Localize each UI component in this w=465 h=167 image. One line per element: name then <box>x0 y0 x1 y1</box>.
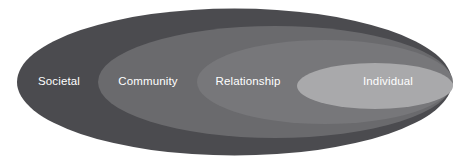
relationship-label: Relationship <box>215 75 280 87</box>
community-label: Community <box>118 75 178 87</box>
individual-label: Individual <box>363 75 413 87</box>
nested-ellipses-canvas: Societal Community Relationship Individu… <box>0 0 465 167</box>
social-ecological-model-diagram: Societal Community Relationship Individu… <box>0 0 465 167</box>
societal-label: Societal <box>38 75 80 87</box>
